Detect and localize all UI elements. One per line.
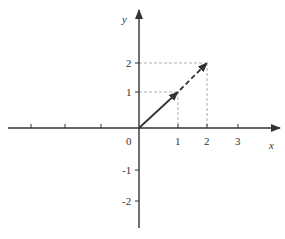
vector-dashed	[180, 63, 207, 90]
y-tick-label-neg1: -1	[122, 164, 131, 176]
vector-diagram: y x 0 1 2 3 1 2 -1 -2	[0, 0, 285, 239]
x-tick-label-2: 2	[204, 135, 210, 147]
y-tick-label-neg2: -2	[122, 195, 131, 207]
y-tick-label-1: 1	[126, 86, 132, 98]
x-tick-label-1: 1	[175, 135, 181, 147]
coordinate-plane: y x 0 1 2 3 1 2 -1 -2	[0, 0, 285, 239]
x-tick-label-3: 3	[235, 135, 241, 147]
vector-solid	[139, 92, 178, 128]
x-axis-label: x	[268, 139, 274, 151]
y-axis-label: y	[121, 13, 127, 25]
origin-label: 0	[126, 135, 132, 147]
y-tick-label-2: 2	[126, 57, 132, 69]
